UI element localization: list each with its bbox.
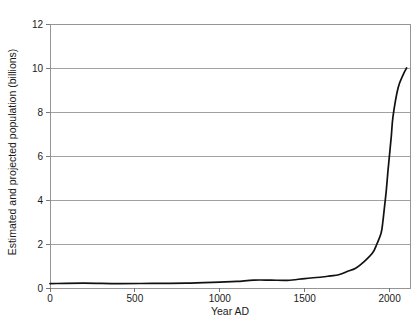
y-tick-label: 8	[37, 107, 43, 118]
x-tick-label: 2000	[378, 293, 401, 304]
x-tick-label: 1500	[294, 293, 317, 304]
gridlines-group	[50, 68, 410, 244]
y-tick-label: 0	[37, 283, 43, 294]
y-tick-label: 4	[37, 195, 43, 206]
y-axis-ticks-group: 024681012	[32, 19, 50, 294]
y-tick-label: 12	[32, 19, 44, 30]
y-tick-label: 2	[37, 239, 43, 250]
population-chart-figure: Estimated and projected population (bill…	[0, 0, 419, 330]
x-tick-label: 0	[47, 293, 53, 304]
population-curve	[50, 68, 407, 284]
y-tick-label: 6	[37, 151, 43, 162]
plot-svg: 024681012 0500100015002000	[0, 0, 419, 330]
y-tick-label: 10	[32, 63, 44, 74]
x-tick-label: 1000	[209, 293, 232, 304]
x-tick-label: 500	[127, 293, 144, 304]
x-axis-ticks-group: 0500100015002000	[47, 288, 401, 304]
